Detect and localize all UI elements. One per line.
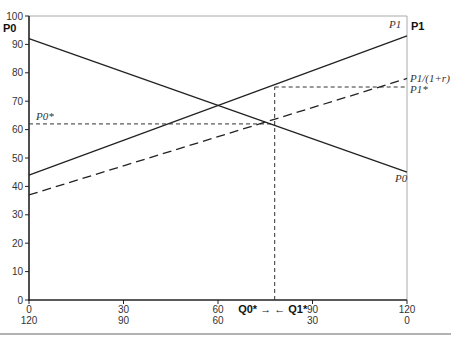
y-tick-label: 20 bbox=[12, 238, 24, 249]
x-tick-label-q0: 30 bbox=[118, 304, 130, 315]
y-tick-label: 60 bbox=[12, 124, 24, 135]
x-tick-label-q0: 0 bbox=[26, 304, 32, 315]
y-tick-label: 80 bbox=[12, 67, 24, 78]
chart: 0102030405060708090100012030906060903012… bbox=[0, 0, 451, 341]
y-tick-label: 0 bbox=[17, 295, 23, 306]
series-line bbox=[29, 36, 407, 175]
x-tick-label-q0: 90 bbox=[307, 304, 319, 315]
p1-line-label: P1 bbox=[388, 18, 401, 30]
x-tick-label-q0: 120 bbox=[399, 304, 416, 315]
y-axis-label-left: P0 bbox=[3, 22, 16, 34]
y-axis-label-right: P1 bbox=[411, 20, 424, 32]
y-tick-label: 50 bbox=[12, 153, 24, 164]
p0-star-label: P0* bbox=[35, 110, 54, 122]
x-tick-label-q1: 60 bbox=[212, 315, 224, 326]
y-tick-label: 40 bbox=[12, 181, 24, 192]
y-tick-label: 100 bbox=[6, 11, 23, 22]
q-star-arrows: Q0* → ← Q1* bbox=[238, 303, 308, 315]
y-tick-label: 90 bbox=[12, 39, 24, 50]
y-tick-label: 30 bbox=[12, 209, 24, 220]
x-tick-label-q1: 90 bbox=[118, 315, 130, 326]
plot-area: 0102030405060708090100012030906060903012… bbox=[0, 11, 451, 335]
y-tick-label: 10 bbox=[12, 266, 24, 277]
p0-line-label: P0 bbox=[394, 172, 408, 184]
x-tick-label-q1: 0 bbox=[404, 315, 410, 326]
series-line bbox=[29, 78, 407, 194]
y-tick-label: 70 bbox=[12, 96, 24, 107]
x-tick-label-q1: 30 bbox=[307, 315, 319, 326]
x-tick-label-q0: 60 bbox=[212, 304, 224, 315]
p1-star-label: P1* bbox=[409, 83, 428, 95]
x-tick-label-q1: 120 bbox=[21, 315, 38, 326]
